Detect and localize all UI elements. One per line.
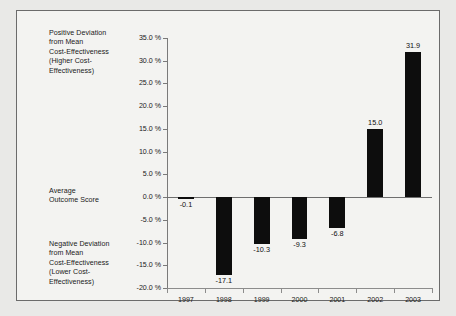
y-axis-tick-label: -20.0 % [137,284,161,292]
y-axis-tick-label: 35.0 % [139,34,161,42]
x-axis-tick [394,288,395,293]
bar [292,197,308,239]
x-axis-label: 1997 [178,296,194,304]
bar-value-label: -6.8 [331,229,344,238]
y-axis-tick-label: 20.0 % [139,102,161,110]
y-axis-tick-label: 30.0 % [139,57,161,65]
y-axis-tick [163,106,167,107]
x-axis-label: 2003 [405,296,421,304]
x-axis-line [167,288,432,289]
y-axis-tick-label: -10.0 % [137,239,161,247]
x-axis-label: 2002 [367,296,383,304]
y-axis-tick [163,61,167,62]
bar-value-label: 15.0 [368,118,382,127]
y-axis-tick-label: 0.0 % [143,193,161,201]
bar [254,197,270,244]
y-axis-tick [163,243,167,244]
x-axis-tick [356,288,357,293]
y-axis-tick-label: -15.0 % [137,261,161,269]
x-axis-tick [281,288,282,293]
y-axis-tick [163,265,167,266]
bar [216,197,232,275]
x-axis-label: 2001 [329,296,345,304]
y-axis-tick [163,174,167,175]
x-axis-tick [205,288,206,293]
bar-value-label: -0.1 [180,200,193,209]
chart-frame: Positive Deviation from Mean Cost-Effect… [16,10,440,301]
y-axis-tick [163,83,167,84]
y-axis-tick [163,152,167,153]
average-outcome-score-label: Average Outcome Score [49,187,147,206]
negative-deviation-label: Negative Deviation from Mean Cost-Effect… [49,240,147,287]
y-axis-line [167,38,168,288]
bar [329,197,345,228]
positive-deviation-label: Positive Deviation from Mean Cost-Effect… [49,29,147,76]
bar-chart-plot-area: 35.0 %30.0 %25.0 %20.0 %15.0 %10.0 %5.0 … [167,38,432,288]
y-axis-tick [163,129,167,130]
bar [367,129,383,197]
y-axis-tick-label: 15.0 % [139,125,161,133]
x-axis-tick [432,288,433,293]
bar-value-label: -9.3 [293,240,306,249]
bar-value-label: 31.9 [406,41,420,50]
x-axis-label: 2000 [292,296,308,304]
x-axis-tick [318,288,319,293]
y-axis-tick [163,220,167,221]
x-axis-label: 1998 [216,296,232,304]
bar [405,52,421,197]
y-axis-tick-label: 10.0 % [139,148,161,156]
y-axis-tick-label: 25.0 % [139,79,161,87]
x-axis-tick [243,288,244,293]
bar [178,197,194,199]
y-axis-tick [163,38,167,39]
x-axis-label: 1999 [254,296,270,304]
x-axis-tick [167,288,168,293]
y-axis-tick-label: 5.0 % [143,170,161,178]
y-axis-tick-label: -5.0 % [140,216,161,224]
bar-value-label: -17.1 [215,276,232,285]
bar-value-label: -10.3 [253,245,270,254]
